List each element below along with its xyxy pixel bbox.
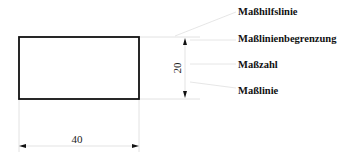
label-masszahl: Maßzahl [238, 60, 278, 71]
label-masslinienbegrenzung: Maßlinienbegrenzung [238, 34, 336, 45]
horizontal-dimension-value: 40 [72, 133, 84, 145]
object-rectangle [19, 37, 139, 99]
horizontal-dimension: 40 [19, 133, 139, 148]
leader-lines [175, 12, 236, 88]
arrow-right-icon [132, 144, 139, 148]
dimension-diagram: 20 40 [0, 0, 358, 165]
vertical-dimension: 20 [171, 38, 187, 98]
arrow-down-icon [183, 91, 187, 98]
vertical-dimension-value: 20 [171, 62, 183, 74]
label-masslinie: Maßlinie [238, 86, 278, 97]
arrow-up-icon [183, 38, 187, 45]
label-masshilfslinie: Maßhilfslinie [238, 7, 298, 18]
arrow-left-icon [19, 144, 26, 148]
